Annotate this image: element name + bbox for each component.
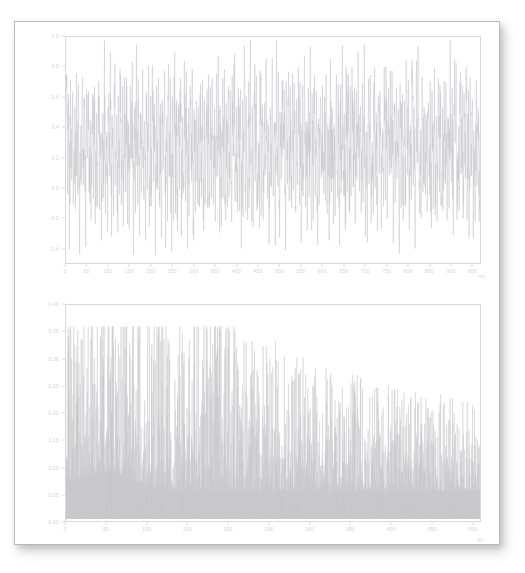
y-tick-label: 0.20: [25, 410, 59, 416]
x-tick-label: 850: [425, 268, 434, 274]
y-tick-label: 0.25: [25, 383, 59, 389]
x-tick-mark: [350, 522, 351, 525]
figure-container: 0501001502002503003504004505005506006507…: [15, 22, 499, 544]
x-tick-mark: [429, 264, 430, 267]
x-tick-label: 150: [125, 268, 134, 274]
x-tick-mark: [309, 522, 310, 525]
y-tick-label: 0.4: [25, 124, 59, 130]
x-tick-label: 450: [254, 268, 263, 274]
x-tick-label: 200: [224, 526, 233, 532]
plot-area-time-domain: [65, 36, 481, 264]
x-tick-mark: [215, 264, 216, 267]
y-tick-label: 0.6: [25, 94, 59, 100]
x-tick-label: 150: [183, 526, 192, 532]
y-tick-label: 0.00: [25, 519, 59, 525]
series-amplitude: [66, 37, 480, 263]
x-tick-mark: [172, 264, 173, 267]
x-tick-mark: [343, 264, 344, 267]
x-tick-mark: [450, 264, 451, 267]
x-tick-label: 950: [468, 268, 477, 274]
x-tick-label: 0: [64, 526, 67, 532]
x-tick-label: 0: [64, 268, 67, 274]
x-tick-mark: [150, 264, 151, 267]
x-tick-mark: [146, 522, 147, 525]
x-tick-mark: [268, 522, 269, 525]
x-tick-label: 50: [83, 268, 89, 274]
x-tick-label: 350: [346, 526, 355, 532]
x-tick-label: 350: [211, 268, 220, 274]
x-tick-mark: [472, 522, 473, 525]
x-tick-label: 200: [146, 268, 155, 274]
x-tick-label: 800: [404, 268, 413, 274]
x-tick-mark: [86, 264, 87, 267]
x-tick-label: 100: [142, 526, 151, 532]
x-tick-label: 900: [446, 268, 455, 274]
y-tick-label: 1.0: [25, 33, 59, 39]
x-tick-mark: [472, 264, 473, 267]
x-tick-mark: [365, 264, 366, 267]
y-tick-label: 0.30: [25, 356, 59, 362]
x-tick-label: 50: [103, 526, 109, 532]
y-tick-label: 0.05: [25, 492, 59, 498]
series-magnitude: [66, 305, 480, 521]
x-tick-mark: [257, 264, 258, 267]
x-tick-label: 700: [361, 268, 370, 274]
y-tick-label: -0.4: [25, 246, 59, 252]
xaxis-unit-label: ms: [479, 274, 485, 279]
x-tick-label: 500: [468, 526, 477, 532]
chart-time-domain: 0501001502002503003504004505005506006507…: [25, 28, 491, 290]
x-tick-mark: [236, 264, 237, 267]
x-tick-label: 750: [382, 268, 391, 274]
x-tick-mark: [391, 522, 392, 525]
x-tick-mark: [228, 522, 229, 525]
x-tick-label: 300: [305, 526, 314, 532]
x-tick-mark: [300, 264, 301, 267]
y-tick-label: 0.2: [25, 155, 59, 161]
x-tick-mark: [129, 264, 130, 267]
x-tick-label: 500: [275, 268, 284, 274]
x-tick-mark: [322, 264, 323, 267]
x-tick-label: 550: [296, 268, 305, 274]
x-tick-mark: [65, 522, 66, 525]
x-tick-label: 450: [428, 526, 437, 532]
x-tick-mark: [107, 264, 108, 267]
x-tick-label: 400: [232, 268, 241, 274]
y-tick-label: -0.2: [25, 215, 59, 221]
x-tick-mark: [279, 264, 280, 267]
y-tick-label: 0.8: [25, 63, 59, 69]
x-tick-mark: [193, 264, 194, 267]
x-tick-mark: [105, 522, 106, 525]
x-tick-label: 300: [189, 268, 198, 274]
y-tick-label: 0.40: [25, 301, 59, 307]
x-tick-label: 650: [339, 268, 348, 274]
x-tick-mark: [386, 264, 387, 267]
x-tick-label: 250: [168, 268, 177, 274]
x-tick-mark: [187, 522, 188, 525]
y-tick-label: 0.10: [25, 465, 59, 471]
x-tick-label: 400: [387, 526, 396, 532]
x-tick-label: 600: [318, 268, 327, 274]
y-tick-label: 0.35: [25, 328, 59, 334]
xaxis-unit-label: Hz: [477, 538, 483, 543]
x-tick-mark: [65, 264, 66, 267]
x-tick-label: 250: [264, 526, 273, 532]
y-tick-label: 0.0: [25, 185, 59, 191]
x-tick-label: 100: [103, 268, 112, 274]
y-tick-label: 0.15: [25, 437, 59, 443]
x-tick-mark: [408, 264, 409, 267]
plot-area-frequency-domain: [65, 304, 481, 522]
document-page: 0501001502002503003504004505005506006507…: [14, 21, 500, 545]
x-tick-mark: [432, 522, 433, 525]
chart-frequency-domain: 0501001502002503003504004505000.400.350.…: [25, 294, 491, 542]
